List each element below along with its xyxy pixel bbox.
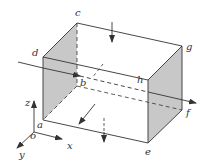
- vertex-label-d: d: [32, 48, 38, 58]
- vertex-label-e: e: [145, 147, 151, 157]
- axis-label-o: o: [30, 131, 36, 141]
- vertex-label-g: g: [186, 42, 192, 52]
- box-diagram: c d g h b f a e z o x y: [0, 0, 212, 167]
- box-figure: [0, 0, 212, 167]
- vertex-label-h: h: [137, 75, 143, 85]
- diagonal-arrow: [79, 104, 95, 124]
- axis-label-x: x: [67, 141, 73, 151]
- vertex-label-a: a: [37, 120, 43, 130]
- vertex-label-f: f: [186, 108, 190, 118]
- axis-label-z: z: [25, 98, 30, 108]
- axis-label-y: y: [19, 150, 25, 160]
- vertex-label-b: b: [80, 78, 86, 88]
- vertex-label-c: c: [75, 8, 81, 18]
- right-face: [148, 46, 182, 143]
- inner-diagonal-dashed: [92, 64, 103, 78]
